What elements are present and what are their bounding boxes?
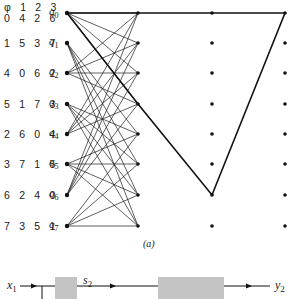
trellis-node xyxy=(210,11,214,15)
signal-label-s2: s2 xyxy=(83,274,92,289)
input-label-x1: x1 xyxy=(7,279,17,294)
trellis-node xyxy=(136,162,140,166)
trellis-node xyxy=(210,41,214,45)
block-2 xyxy=(158,277,224,299)
trellis-node xyxy=(283,193,287,197)
figure-caption: (a) xyxy=(143,238,155,249)
state-name-q2: q2 xyxy=(49,66,59,80)
state-name-q4: q4 xyxy=(49,127,59,141)
trellis-node xyxy=(65,11,69,15)
trellis-node xyxy=(136,71,140,75)
trellis-edges xyxy=(67,13,138,226)
trellis-node xyxy=(283,102,287,106)
trellis-branch xyxy=(67,13,138,134)
trellis-node xyxy=(210,224,214,228)
trellis-branch xyxy=(67,134,138,226)
state-name-q7: q7 xyxy=(49,219,59,233)
block-1 xyxy=(55,277,77,299)
trellis-node xyxy=(65,71,69,75)
trellis-node xyxy=(210,132,214,136)
output-label-y2: y2 xyxy=(275,279,285,294)
trellis-node xyxy=(283,132,287,136)
state-name-q5: q5 xyxy=(49,157,59,171)
trellis-node xyxy=(210,71,214,75)
trellis-node xyxy=(136,132,140,136)
trellis-node xyxy=(65,162,69,166)
trellis-node xyxy=(283,41,287,45)
trellis-node xyxy=(65,132,69,136)
trellis-node xyxy=(136,224,140,228)
trellis-node xyxy=(210,193,214,197)
arrow-right-icon xyxy=(31,284,37,289)
trellis-node xyxy=(65,224,69,228)
trellis-node xyxy=(136,193,140,197)
trellis-node xyxy=(210,102,214,106)
trellis-node xyxy=(65,41,69,45)
state-name-q6: q6 xyxy=(49,188,59,202)
trellis-node xyxy=(283,11,287,15)
trellis-node xyxy=(136,102,140,106)
trellis-node xyxy=(210,162,214,166)
trellis-branch xyxy=(67,195,138,226)
state-name-q1: q1 xyxy=(49,36,59,50)
trellis-node xyxy=(65,193,69,197)
state-name-q3: q3 xyxy=(49,97,59,111)
arrow-right-icon xyxy=(246,284,252,289)
arrow-right-icon xyxy=(110,284,116,289)
trellis-node xyxy=(136,41,140,45)
trellis-branch xyxy=(67,13,138,195)
trellis-node xyxy=(65,102,69,106)
trellis-node xyxy=(283,162,287,166)
trellis-branch xyxy=(67,13,138,43)
trellis-node xyxy=(283,224,287,228)
trellis-nodes xyxy=(65,11,287,228)
trellis-branch xyxy=(67,104,138,226)
state-name-q0: q0 xyxy=(49,6,59,20)
trellis-node xyxy=(283,71,287,75)
trellis-node xyxy=(136,11,140,15)
